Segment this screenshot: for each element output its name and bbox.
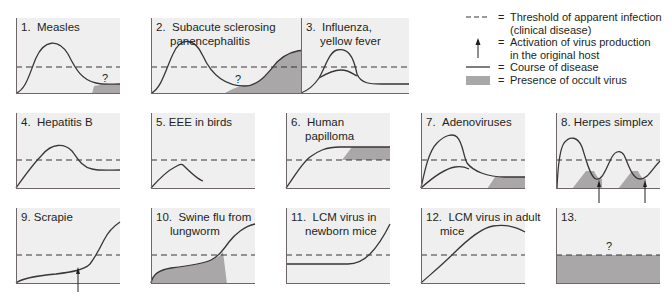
- panel-title: 9. Scrapie: [21, 210, 73, 224]
- panel-title: 11. LCM virus innewborn mice: [291, 210, 377, 238]
- panel-adenoviruses: 7. Adenoviruses: [421, 113, 525, 189]
- panel-sspe: 2. Subacute sclerosingpanencephalitis ?: [151, 18, 307, 94]
- legend-item-threshold: = Threshold of apparent infection: [466, 11, 672, 24]
- panel-scrapie: 9. Scrapie: [16, 208, 120, 284]
- occult-virus-area: [556, 255, 660, 284]
- question-mark: ?: [102, 72, 108, 84]
- panel-hepatitis-b: 4. Hepatitis B: [16, 113, 120, 189]
- panel-title: 4. Hepatitis B: [21, 115, 93, 129]
- panel-title: 1. Measles: [21, 20, 80, 34]
- solid-line-icon: [466, 61, 490, 74]
- panel-herpes-simplex: 8. Herpes simplex: [556, 113, 660, 189]
- gray-box-icon: [466, 74, 490, 87]
- legend-item-activation: = Activation of virus production: [466, 36, 672, 49]
- panel-title: 12. LCM virus in adultmice: [426, 210, 540, 238]
- panel-title: 7. Adenoviruses: [426, 115, 512, 129]
- panel-influenza: 3. Influenza,yellow fever: [301, 18, 409, 94]
- question-mark: ?: [235, 73, 241, 85]
- panel-title: 6. Humanpapilloma: [291, 115, 354, 143]
- panel-lcm-adult: 12. LCM virus in adultmice: [421, 208, 525, 284]
- legend-item-occult: = Presence of occult virus: [466, 74, 672, 87]
- panel-eee-birds: 5. EEE in birds: [151, 113, 255, 189]
- panel-swine-flu: 10. Swine flu fromlungworm: [151, 208, 255, 284]
- panel-title: 13.: [561, 210, 577, 224]
- panel-title: 8. Herpes simplex: [561, 115, 653, 129]
- panel-title: 5. EEE in birds: [156, 115, 232, 129]
- question-mark: ?: [606, 240, 612, 252]
- dashed-line-icon: [466, 11, 490, 24]
- panel-measles: 1. Measles ?: [16, 18, 120, 94]
- panel-13: 13. ?: [556, 208, 660, 284]
- panel-title: 10. Swine flu fromlungworm: [156, 210, 251, 238]
- panel-title: 2. Subacute sclerosingpanencephalitis: [156, 20, 276, 48]
- panel-lcm-newborn: 11. LCM virus innewborn mice: [286, 208, 390, 284]
- legend: = Threshold of apparent infection (clini…: [466, 11, 672, 86]
- panel-title: 3. Influenza,yellow fever: [306, 20, 381, 48]
- legend-item-course: = Course of disease: [466, 61, 672, 74]
- panel-human-papilloma: 6. Humanpapilloma: [286, 113, 390, 189]
